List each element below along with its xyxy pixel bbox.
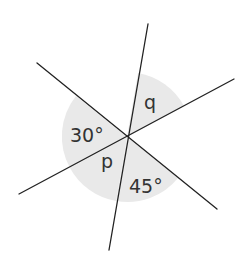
angle-label-30: 30° (70, 124, 104, 146)
angles-diagram: 30° q p 45° (0, 0, 247, 257)
lines (19, 24, 234, 250)
angle-label-p: p (101, 150, 113, 172)
angle-label-45: 45° (129, 175, 163, 197)
angle-label-q: q (144, 91, 156, 113)
